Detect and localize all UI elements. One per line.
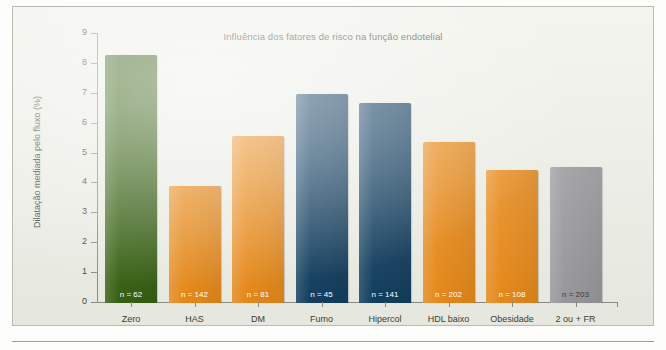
x-tick-mark	[576, 302, 577, 307]
x-tick-mark	[385, 302, 386, 307]
bar: n = 81	[232, 136, 284, 303]
y-tick-mark	[91, 153, 97, 154]
y-tick-label: 6	[69, 118, 87, 127]
y-tick-mark	[91, 212, 97, 213]
bar-count-label: n = 62	[105, 290, 157, 299]
x-category-label: HDL baixo	[413, 314, 485, 324]
bar: n = 202	[423, 142, 475, 303]
y-tick-label: 0	[69, 297, 87, 306]
x-tick-mark	[512, 302, 513, 307]
bar-count-label: n = 81	[232, 290, 284, 299]
y-tick-label: 9	[69, 28, 87, 37]
y-axis-line	[97, 33, 98, 303]
x-category-label: Hipercol	[349, 314, 421, 324]
y-tick-label: 2	[69, 237, 87, 246]
bar-count-label: n = 108	[486, 290, 538, 299]
x-category-label: 2 ou + FR	[540, 314, 612, 324]
x-tick-mark	[449, 302, 450, 307]
figure-page: Influência dos fatores de risco na funçã…	[0, 0, 666, 350]
chart-panel: Influência dos fatores de risco na funçã…	[12, 6, 654, 326]
bar-count-label: n = 142	[169, 290, 221, 299]
x-category-label: Fumo	[286, 314, 358, 324]
y-tick-label: 1	[69, 267, 87, 276]
bar: n = 45	[296, 94, 348, 303]
x-category-label: DM	[222, 314, 294, 324]
footer-rule	[12, 341, 654, 342]
y-tick-mark	[91, 33, 97, 34]
y-axis-label: Dilatação mediada pelo fluxo (%)	[32, 52, 42, 272]
x-tick-mark	[195, 302, 196, 307]
bar-count-label: n = 141	[359, 290, 411, 299]
x-category-label: Obesidade	[476, 314, 548, 324]
bar: n = 141	[359, 103, 411, 303]
x-axis-end-tick	[617, 302, 618, 307]
x-tick-mark	[258, 302, 259, 307]
y-tick-mark	[91, 123, 97, 124]
bar-count-label: n = 202	[423, 290, 475, 299]
y-tick-mark	[91, 272, 97, 273]
y-tick-mark	[91, 93, 97, 94]
y-tick-mark	[91, 242, 97, 243]
y-tick-mark	[91, 302, 97, 303]
bar-count-label: n = 203	[550, 290, 602, 299]
x-tick-mark	[322, 302, 323, 307]
plot-area: Dilatação mediada pelo fluxo (%) 0123456…	[13, 7, 654, 326]
bar-count-label: n = 45	[296, 290, 348, 299]
x-category-label: Zero	[95, 314, 167, 324]
bar: n = 108	[486, 170, 538, 303]
y-tick-label: 5	[69, 148, 87, 157]
bar: n = 62	[105, 55, 157, 303]
bar: n = 142	[169, 186, 221, 303]
y-tick-mark	[91, 182, 97, 183]
x-tick-mark	[131, 302, 132, 307]
y-tick-label: 7	[69, 88, 87, 97]
y-tick-label: 3	[69, 207, 87, 216]
x-category-label: HAS	[159, 314, 231, 324]
y-tick-label: 8	[69, 58, 87, 67]
y-tick-mark	[91, 63, 97, 64]
y-tick-label: 4	[69, 177, 87, 186]
bar: n = 203	[550, 167, 602, 303]
